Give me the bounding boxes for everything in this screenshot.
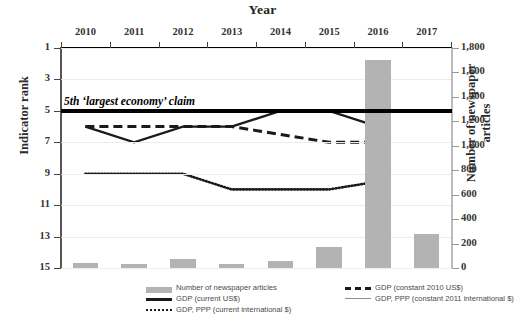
x-tick-label: 2013: [208, 26, 256, 37]
y-axis-right: [451, 47, 453, 269]
y-tick-label-right: 1,400: [461, 90, 499, 101]
line-series: [61, 48, 451, 268]
bar: [121, 264, 146, 268]
y-tick-right: [452, 72, 459, 73]
y-tick-label-right: 1,000: [461, 139, 499, 150]
y-tick-left: [54, 174, 61, 175]
y-tick-right: [452, 244, 459, 245]
y-tick-label-left: 15: [28, 261, 50, 272]
y-tick-right: [452, 268, 459, 269]
y-tick-right: [452, 219, 459, 220]
bar: [73, 263, 98, 268]
bar: [170, 259, 195, 268]
y-tick-left: [54, 237, 61, 238]
y-tick-right: [452, 195, 459, 196]
bar: [219, 264, 244, 268]
chart-legend: Number of newspaper articlesGDP (current…: [0, 281, 525, 323]
legend-label: GDP, PPP (constant 2011 international $): [375, 294, 514, 303]
y-tick-label-left: 7: [28, 135, 50, 146]
x-tick-label: 2014: [256, 26, 304, 37]
y-tick-label-right: 200: [461, 237, 499, 248]
y-tick-label-right: 0: [461, 261, 499, 272]
bar: [268, 261, 293, 268]
line-path: [85, 174, 378, 190]
claim-reference-line: [61, 109, 452, 113]
legend-key-bar-swatch: [146, 287, 172, 293]
gridline: [61, 237, 451, 238]
y-tick-label-left: 11: [28, 198, 50, 209]
gridline: [61, 142, 451, 143]
gridline: [61, 205, 451, 206]
y-tick-left: [54, 111, 61, 112]
gridline: [61, 268, 451, 269]
legend-label: GDP (constant 2010 US$): [375, 283, 463, 292]
x-tick-label: 2010: [61, 26, 109, 37]
legend-key-thin-solid-line: [345, 298, 371, 299]
y-tick-right: [452, 121, 459, 122]
y-tick-label-left: 5: [28, 104, 50, 115]
bar: [414, 234, 439, 268]
y-tick-label-left: 13: [28, 230, 50, 241]
y-tick-label-right: 600: [461, 188, 499, 199]
y-tick-label-right: 800: [461, 163, 499, 174]
claim-annotation-label: 5th ‘largest economy’ claim: [64, 95, 195, 107]
gridline: [61, 174, 451, 175]
plot-area: [61, 48, 451, 268]
legend-label: GDP (current US$): [176, 294, 240, 303]
y-tick-label-right: 1,800: [461, 41, 499, 52]
bar: [365, 60, 390, 268]
legend-label: Number of newspaper articles: [176, 283, 277, 292]
y-tick-label-right: 1,200: [461, 114, 499, 125]
y-tick-label-right: 1,600: [461, 65, 499, 76]
legend-label: GDP, PPP (current international $): [176, 305, 291, 314]
y-tick-right: [452, 48, 459, 49]
y-tick-label-left: 9: [28, 167, 50, 178]
y-tick-left: [54, 205, 61, 206]
y-tick-label-right: 400: [461, 212, 499, 223]
gridline: [61, 79, 451, 80]
gridline: [61, 48, 451, 49]
x-tick-label: 2012: [159, 26, 207, 37]
legend-key-dashed-line: [345, 287, 371, 290]
y-tick-right: [452, 97, 459, 98]
y-tick-left: [54, 48, 61, 49]
chart-figure: Year Indicator rank Number of newspaper …: [0, 0, 525, 323]
y-tick-left: [54, 268, 61, 269]
y-tick-right: [452, 146, 459, 147]
y-tick-left: [54, 142, 61, 143]
x-tick-label: 2017: [403, 26, 451, 37]
y-tick-left: [54, 79, 61, 80]
y-tick-label-left: 1: [28, 41, 50, 52]
chart-title: Year: [0, 2, 525, 18]
x-tick-label: 2016: [354, 26, 402, 37]
bar: [316, 247, 341, 268]
x-tick-label: 2015: [305, 26, 353, 37]
legend-key-solid-line: [146, 298, 172, 301]
x-tick-label: 2011: [110, 26, 158, 37]
y-tick-label-left: 3: [28, 72, 50, 83]
y-tick-right: [452, 170, 459, 171]
legend-key-dotted-line: [146, 309, 172, 311]
